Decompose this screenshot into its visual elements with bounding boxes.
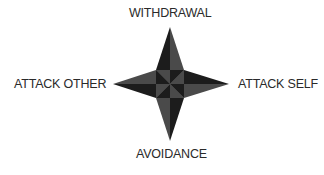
compass-star-icon <box>0 0 324 175</box>
